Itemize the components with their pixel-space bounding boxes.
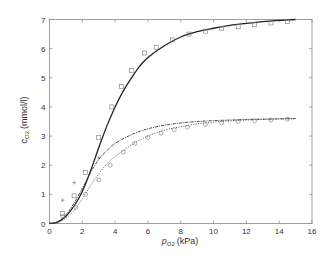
plus-marker bbox=[97, 156, 101, 160]
chart: 0246810121416 01234567 pO2(kPa) cO2(mmol… bbox=[0, 0, 333, 256]
circle-marker bbox=[203, 122, 207, 126]
circle-marker bbox=[97, 178, 101, 182]
circle-marker bbox=[185, 125, 189, 129]
y-tick-label: 7 bbox=[41, 16, 46, 25]
y-axis-label: cO2(mmol/l) bbox=[19, 96, 30, 143]
x-tick-label: 0 bbox=[47, 227, 52, 236]
y-tick-label: 6 bbox=[41, 45, 46, 54]
x-tick-label: 12 bbox=[242, 227, 251, 236]
square-marker bbox=[253, 23, 257, 27]
square-marker bbox=[120, 85, 124, 89]
square-marker bbox=[84, 171, 88, 175]
plus-marker bbox=[72, 181, 76, 185]
circle-marker bbox=[159, 131, 163, 135]
square-marker bbox=[72, 194, 76, 198]
lower-fit-line bbox=[50, 119, 296, 224]
y-tick-label: 3 bbox=[41, 132, 46, 141]
x-tick-label: 6 bbox=[146, 227, 151, 236]
middle-fit-line bbox=[50, 119, 296, 224]
square-marker bbox=[154, 45, 158, 49]
x-tick-label: 16 bbox=[308, 227, 317, 236]
square-marker bbox=[143, 51, 147, 55]
circle-marker bbox=[253, 119, 257, 123]
x-axis-label: pO2(kPa) bbox=[161, 236, 199, 247]
series-layer bbox=[50, 20, 296, 224]
y-tick-label: 4 bbox=[41, 103, 46, 112]
y-tick-label: 1 bbox=[41, 190, 46, 199]
circle-marker bbox=[74, 205, 78, 209]
x-tick-label: 2 bbox=[80, 227, 85, 236]
square-marker bbox=[110, 105, 114, 109]
circle-marker bbox=[84, 192, 88, 196]
x-axis-ticks: 0246810121416 bbox=[47, 20, 317, 236]
circle-marker bbox=[121, 150, 125, 154]
square-marker bbox=[236, 25, 240, 29]
y-tick-label: 0 bbox=[41, 220, 46, 229]
x-tick-label: 4 bbox=[113, 227, 118, 236]
x-tick-label: 14 bbox=[275, 227, 284, 236]
y-tick-label: 2 bbox=[41, 161, 46, 170]
circle-marker bbox=[220, 121, 224, 125]
square-marker bbox=[97, 136, 101, 140]
circle-marker bbox=[108, 163, 112, 167]
x-tick-label: 10 bbox=[209, 227, 218, 236]
x-tick-label: 8 bbox=[179, 227, 184, 236]
circle-marker bbox=[133, 141, 137, 145]
plus-marker bbox=[61, 198, 65, 202]
y-tick-label: 5 bbox=[41, 74, 46, 83]
square-marker bbox=[130, 69, 134, 73]
